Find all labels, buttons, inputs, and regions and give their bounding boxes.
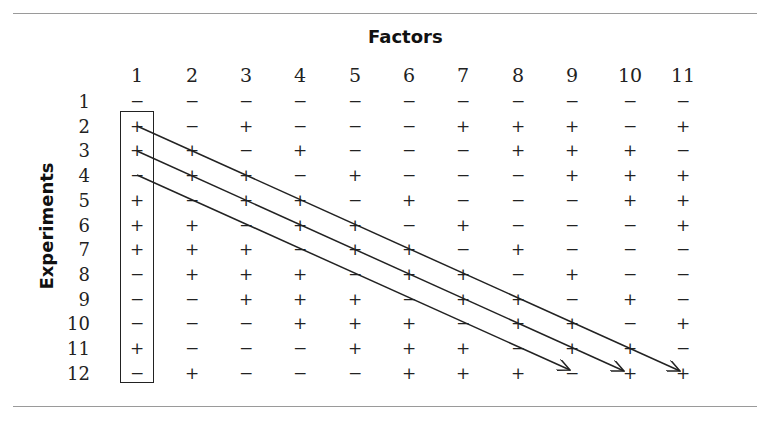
arrow-row3-to-factor10 (137, 151, 624, 371)
arrow-row2-to-factor11 (137, 126, 680, 371)
bottom-rule (13, 406, 757, 407)
arrow-row4-to-factor9 (137, 175, 570, 370)
cyclic-shift-arrows (0, 0, 770, 422)
